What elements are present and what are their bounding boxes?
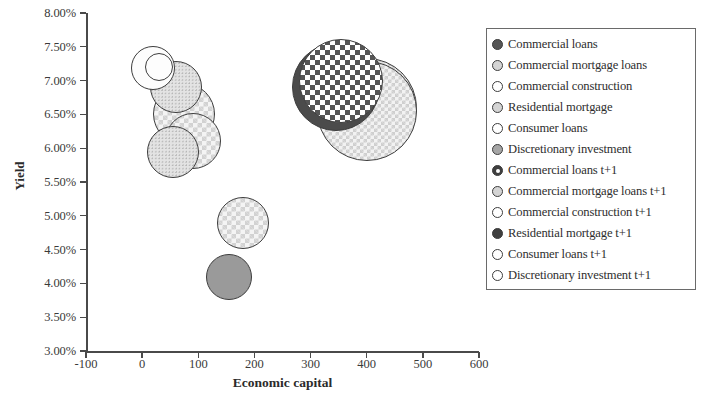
x-tick-label: -100 (61, 358, 111, 371)
legend-marker-icon (492, 249, 503, 260)
y-tick-label: 4.00% (16, 277, 76, 290)
legend-marker-icon (492, 39, 503, 50)
legend-marker-icon (492, 102, 503, 113)
y-tick-label: 4.50% (16, 244, 76, 257)
y-tick (80, 249, 86, 250)
legend-marker-icon (492, 165, 503, 176)
legend-item-label: Residential mortgage t+1 (508, 227, 632, 240)
legend-item-label: Residential mortgage (508, 101, 612, 114)
legend-box: Commercial loansCommercial mortgage loan… (486, 28, 696, 290)
y-tick (80, 283, 86, 284)
bubble-discretionary-investment (206, 254, 252, 300)
legend-item-label: Commercial construction t+1 (508, 206, 652, 219)
bubble-consumer-loans-t-1 (217, 197, 269, 249)
x-tick-label: 600 (454, 358, 504, 371)
y-axis-line (86, 13, 88, 352)
x-tick-label: 500 (398, 358, 448, 371)
y-tick (80, 181, 86, 182)
y-tick (80, 114, 86, 115)
legend-item-label: Commercial loans t+1 (508, 164, 617, 177)
legend-item-consumer-loans[interactable]: Consumer loans (492, 118, 695, 139)
y-tick-label: 7.50% (16, 41, 76, 54)
legend-item-label: Consumer loans (508, 122, 587, 135)
legend-item-residential-mortgage-t-1[interactable]: Residential mortgage t+1 (492, 223, 695, 244)
x-tick-label: 0 (117, 358, 167, 371)
bubble-commercial-loans-t-1 (299, 39, 383, 123)
legend-marker-icon (492, 207, 503, 218)
legend-marker-icon (492, 186, 503, 197)
y-tick (80, 80, 86, 81)
legend-marker-icon (492, 144, 503, 155)
legend-item-label: Discretionary investment t+1 (508, 269, 651, 282)
legend-marker-icon (492, 60, 503, 71)
legend-marker-icon (492, 228, 503, 239)
legend-item-label: Commercial loans (508, 38, 598, 51)
x-tick-label: 300 (286, 358, 336, 371)
x-axis-title: Economic capital (86, 375, 479, 391)
y-tick-label: 6.50% (16, 108, 76, 121)
y-tick (80, 317, 86, 318)
legend-marker-icon (492, 270, 503, 281)
x-tick-label: 200 (229, 358, 279, 371)
legend-item-label: Consumer loans t+1 (508, 248, 607, 261)
y-tick (80, 148, 86, 149)
y-tick-label: 3.00% (16, 345, 76, 358)
legend-item-label: Commercial mortgage loans t+1 (508, 185, 666, 198)
y-tick-label: 5.00% (16, 210, 76, 223)
y-tick-label: 3.50% (16, 311, 76, 324)
y-tick-label: 8.00% (16, 7, 76, 20)
y-tick (80, 215, 86, 216)
x-tick-label: 400 (342, 358, 392, 371)
legend-item-residential-mortgage[interactable]: Residential mortgage (492, 97, 695, 118)
y-axis-title: Yield (12, 144, 28, 208)
legend-item-commercial-construction[interactable]: Commercial construction (492, 76, 695, 97)
x-tick-label: 100 (173, 358, 223, 371)
y-tick (80, 12, 86, 13)
legend-item-consumer-loans-t-1[interactable]: Consumer loans t+1 (492, 244, 695, 265)
legend-item-discretionary-investment-t-1[interactable]: Discretionary investment t+1 (492, 265, 695, 286)
bubble-commercial-loans (145, 53, 173, 81)
legend-item-commercial-mortgage-loans[interactable]: Commercial mortgage loans (492, 55, 695, 76)
bubble-consumer-loans (147, 126, 199, 178)
x-axis-line (86, 351, 479, 353)
legend-item-commercial-loans[interactable]: Commercial loans (492, 34, 695, 55)
legend-marker-icon (492, 81, 503, 92)
bubble-chart-figure: 3.00%3.50%4.00%4.50%5.00%5.50%6.00%6.50%… (0, 0, 702, 398)
legend-item-commercial-mortgage-loans-t-1[interactable]: Commercial mortgage loans t+1 (492, 181, 695, 202)
legend-marker-icon (492, 123, 503, 134)
legend-item-commercial-construction-t-1[interactable]: Commercial construction t+1 (492, 202, 695, 223)
legend-item-label: Commercial construction (508, 80, 632, 93)
legend-item-label: Commercial mortgage loans (508, 59, 647, 72)
legend-item-discretionary-investment[interactable]: Discretionary investment (492, 139, 695, 160)
legend-item-label: Discretionary investment (508, 143, 631, 156)
legend-item-commercial-loans-t-1[interactable]: Commercial loans t+1 (492, 160, 695, 181)
y-tick (80, 46, 86, 47)
y-tick-label: 7.00% (16, 75, 76, 88)
